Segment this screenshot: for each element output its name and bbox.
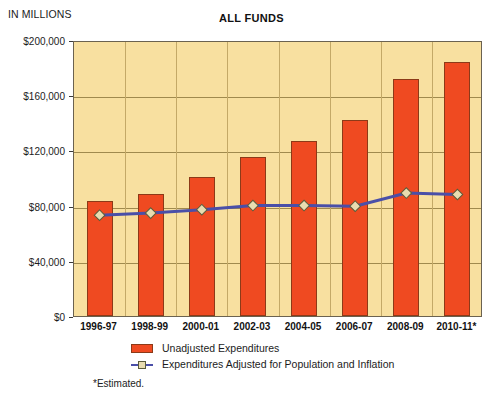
- y-axis-tick-mark: [69, 262, 73, 263]
- y-axis-tick-mark: [69, 207, 73, 208]
- legend: Unadjusted Expenditures Expenditures Adj…: [131, 340, 394, 372]
- x-axis-tick-label: 2000-01: [175, 321, 226, 332]
- footnote: *Estimated.: [93, 378, 144, 389]
- legend-item-adjusted: Expenditures Adjusted for Population and…: [131, 356, 394, 372]
- x-axis-tick-label: 2008-09: [380, 321, 431, 332]
- x-axis-tick-label: 2010-11*: [431, 321, 482, 332]
- line-marker: [299, 200, 310, 211]
- y-axis-tick-label: $160,000: [0, 91, 65, 102]
- line-marker: [145, 208, 156, 219]
- x-axis-tick-label: 2004-05: [278, 321, 329, 332]
- y-axis-tick-mark: [69, 96, 73, 97]
- y-axis-tick-label: $40,000: [0, 256, 65, 267]
- chart-title: ALL FUNDS: [0, 12, 503, 24]
- line-marker: [248, 200, 259, 211]
- legend-bar-swatch-icon: [131, 344, 153, 353]
- legend-line-swatch-icon: [131, 359, 153, 370]
- y-axis-tick-label: $80,000: [0, 201, 65, 212]
- x-axis-tick-label: 2002-03: [226, 321, 277, 332]
- line-marker: [94, 210, 105, 221]
- y-axis-tick-label: $120,000: [0, 146, 65, 157]
- x-axis-tick-label: 1998-99: [124, 321, 175, 332]
- plot-area: [73, 41, 482, 317]
- line-marker: [197, 204, 208, 215]
- legend-label-adjusted: Expenditures Adjusted for Population and…: [162, 358, 394, 370]
- x-axis-tick-label: 1996-97: [73, 321, 124, 332]
- y-axis-tick-label: $200,000: [0, 36, 65, 47]
- chart-container: IN MILLIONS ALL FUNDS $0$40,000$80,000$1…: [0, 0, 503, 401]
- legend-line-marker-icon: [138, 361, 146, 369]
- line-marker: [350, 201, 361, 212]
- y-axis-tick-mark: [69, 151, 73, 152]
- y-axis-tick-mark: [69, 317, 73, 318]
- x-axis-tick-label: 2006-07: [329, 321, 380, 332]
- legend-item-unadjusted: Unadjusted Expenditures: [131, 340, 394, 356]
- line-series-layer: [74, 42, 483, 318]
- legend-label-unadjusted: Unadjusted Expenditures: [162, 342, 279, 354]
- y-axis-tick-mark: [69, 41, 73, 42]
- y-axis-tick-label: $0: [0, 312, 65, 323]
- line-marker: [401, 188, 412, 199]
- line-marker: [452, 189, 463, 200]
